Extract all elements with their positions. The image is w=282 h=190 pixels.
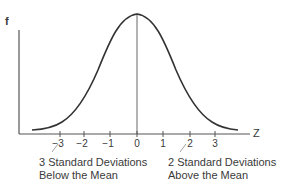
annotation-below-mean: 3 Standard Deviations Below the Mean: [39, 156, 147, 182]
x-axis-label: Z: [253, 127, 260, 140]
normal-curve: [32, 14, 238, 130]
annotation-line: Below the Mean: [39, 169, 147, 182]
tick-label: 2: [187, 138, 193, 149]
tick-label: −2: [76, 138, 87, 149]
tick-label: −3: [52, 138, 63, 149]
annotation-pointer-right: [180, 144, 186, 152]
tick-label: −1: [102, 138, 113, 149]
annotation-line: 3 Standard Deviations: [39, 156, 147, 169]
tick-label: 1: [160, 138, 166, 149]
annotation-line: 2 Standard Deviations: [168, 156, 276, 169]
annotation-line: Above the Mean: [168, 169, 276, 182]
tick-label: 3: [212, 138, 218, 149]
annotation-above-mean: 2 Standard Deviations Above the Mean: [168, 156, 276, 182]
tick-label: 0: [134, 138, 140, 149]
y-axis-label: f: [5, 15, 9, 28]
